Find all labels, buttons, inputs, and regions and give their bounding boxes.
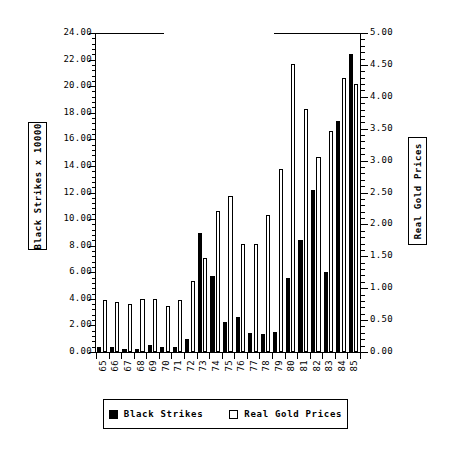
bar-real-gold-prices xyxy=(329,131,333,352)
x-axis-tick xyxy=(96,353,97,359)
right-major-tick xyxy=(361,65,368,66)
x-axis-tick xyxy=(159,353,160,359)
bar-black-strikes xyxy=(122,349,126,352)
bar-real-gold-prices xyxy=(266,215,270,352)
bar-group xyxy=(322,33,335,352)
right-tick-label: 1.50 xyxy=(370,251,393,260)
x-axis-tick xyxy=(134,353,135,359)
right-minor-tick xyxy=(361,314,365,315)
legend-swatch-black xyxy=(109,410,118,419)
right-axis-spine xyxy=(360,33,361,353)
right-minor-tick xyxy=(361,263,365,264)
x-tick-label: 77 xyxy=(249,360,259,371)
bar-real-gold-prices xyxy=(140,299,144,352)
bar-black-strikes xyxy=(349,54,353,352)
bar-black-strikes xyxy=(261,334,265,352)
bar-group xyxy=(272,33,285,352)
right-minor-tick xyxy=(361,103,365,104)
right-tick-label: 3.50 xyxy=(370,124,393,133)
bar-group xyxy=(96,33,109,352)
left-axis-title: Black Strikes x 10000 xyxy=(28,122,47,250)
chart-legend: Black StrikesReal Gold Prices xyxy=(103,399,348,429)
right-minor-tick xyxy=(361,39,365,40)
bar-real-gold-prices xyxy=(254,244,258,352)
left-axis-tick-labels: 0.002.004.006.008.0010.0012.0014.0016.00… xyxy=(48,0,92,450)
bar-real-gold-prices xyxy=(279,169,283,352)
x-tick-label: 65 xyxy=(98,360,108,371)
bar-black-strikes xyxy=(97,347,101,352)
x-axis-tick xyxy=(335,353,336,359)
right-minor-tick xyxy=(361,301,365,302)
right-tick-label: 4.50 xyxy=(370,60,393,69)
right-minor-tick xyxy=(361,122,365,123)
right-minor-tick xyxy=(361,237,365,238)
bar-real-gold-prices xyxy=(342,78,346,352)
bar-black-strikes xyxy=(185,339,189,352)
x-tick-label: 69 xyxy=(148,360,158,371)
bar-group xyxy=(134,33,147,352)
left-tick-label: 20.00 xyxy=(63,81,92,90)
x-tick-label: 74 xyxy=(211,360,221,371)
right-minor-tick xyxy=(361,205,365,206)
right-minor-tick xyxy=(361,326,365,327)
bar-real-gold-prices xyxy=(153,299,157,352)
x-tick-label: 84 xyxy=(337,360,347,371)
x-tick-label: 79 xyxy=(274,360,284,371)
x-tick-label: 76 xyxy=(236,360,246,371)
bar-real-gold-prices xyxy=(203,258,207,352)
right-minor-tick xyxy=(361,90,365,91)
x-axis-tick xyxy=(259,353,260,359)
right-minor-tick xyxy=(361,154,365,155)
x-axis-tick xyxy=(285,353,286,359)
plot-area xyxy=(96,33,360,352)
bar-group xyxy=(109,33,122,352)
bar-black-strikes xyxy=(148,345,152,352)
right-major-tick xyxy=(361,256,368,257)
bar-black-strikes xyxy=(223,322,227,352)
right-major-tick xyxy=(361,224,368,225)
right-tick-label: 4.00 xyxy=(370,92,393,101)
bar-real-gold-prices xyxy=(166,306,170,352)
right-minor-tick xyxy=(361,282,365,283)
bar-real-gold-prices xyxy=(216,211,220,352)
bar-group xyxy=(259,33,272,352)
right-minor-tick xyxy=(361,84,365,85)
bar-group xyxy=(121,33,134,352)
right-minor-tick xyxy=(361,231,365,232)
right-minor-tick xyxy=(361,110,365,111)
x-axis-tick xyxy=(297,353,298,359)
bar-black-strikes xyxy=(298,240,302,352)
right-minor-tick xyxy=(361,148,365,149)
bar-real-gold-prices xyxy=(291,64,295,352)
right-minor-tick xyxy=(361,180,365,181)
bar-group xyxy=(146,33,159,352)
bar-group xyxy=(171,33,184,352)
x-tick-label: 82 xyxy=(312,360,322,371)
x-tick-label: 75 xyxy=(224,360,234,371)
bar-group xyxy=(285,33,298,352)
right-minor-tick xyxy=(361,46,365,47)
x-axis-ticks xyxy=(96,353,360,360)
bar-group xyxy=(159,33,172,352)
left-tick-label: 16.00 xyxy=(63,134,92,143)
x-tick-label: 81 xyxy=(299,360,309,371)
right-tick-label: 5.00 xyxy=(370,28,393,37)
right-minor-tick xyxy=(361,78,365,79)
right-minor-tick xyxy=(361,141,365,142)
right-tick-label: 3.00 xyxy=(370,156,393,165)
right-major-tick xyxy=(361,193,368,194)
bar-group xyxy=(297,33,310,352)
x-tick-label: 80 xyxy=(286,360,296,371)
right-major-tick xyxy=(361,129,368,130)
right-minor-tick xyxy=(361,250,365,251)
x-tick-label: 83 xyxy=(324,360,334,371)
x-axis-tick-labels: 6566676869707172737475767778798081828384… xyxy=(96,360,360,386)
x-tick-label: 85 xyxy=(349,360,359,371)
x-axis-tick xyxy=(146,353,147,359)
bar-real-gold-prices xyxy=(128,304,132,352)
bar-black-strikes xyxy=(324,272,328,352)
right-minor-tick xyxy=(361,275,365,276)
right-axis-tick-labels: 0.000.501.001.502.002.503.003.504.004.50… xyxy=(370,0,410,450)
right-minor-tick xyxy=(361,52,365,53)
bar-black-strikes xyxy=(236,317,240,352)
